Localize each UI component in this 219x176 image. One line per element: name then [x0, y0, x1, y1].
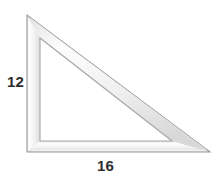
geometry-figure: 12 16: [0, 0, 219, 176]
vertical-leg-length-label: 12: [7, 74, 24, 89]
inner-triangle-outline: [40, 38, 172, 141]
outer-triangle-outline: [27, 15, 210, 152]
triangle-ruler-graphic: [0, 0, 219, 176]
horizontal-leg-length-label: 16: [97, 158, 114, 173]
hypotenuse-band-highlight: [31, 19, 207, 151]
